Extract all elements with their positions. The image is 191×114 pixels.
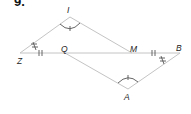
geometry-diagram: I Z Q M B A (0, 0, 191, 114)
label-m: M (130, 44, 138, 54)
label-i: I (67, 5, 70, 15)
label-q: Q (61, 44, 68, 54)
mark-z-cross (33, 42, 36, 50)
label-z: Z (16, 56, 23, 66)
mark-b-cross (161, 56, 164, 64)
label-a: A (123, 92, 130, 102)
segment-ab (128, 53, 180, 89)
segment-qa (65, 53, 128, 89)
segment-im (70, 17, 132, 53)
label-b: B (176, 43, 182, 53)
